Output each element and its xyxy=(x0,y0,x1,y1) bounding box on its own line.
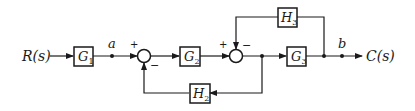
output-label: C(s) xyxy=(366,48,395,64)
sum1-plus-sign: + xyxy=(130,39,138,50)
block-diagram: R(s) C(s) G1 G2 G3 H2 H3 a b + − + − xyxy=(0,0,415,111)
sum2-plus-sign: + xyxy=(219,39,227,50)
g3-label: G3 xyxy=(291,49,306,66)
h2-label: H2 xyxy=(192,86,209,103)
summing-junction-2 xyxy=(230,50,243,63)
node-a xyxy=(110,54,114,58)
h3-label: H3 xyxy=(280,10,297,27)
sum1-minus-sign: − xyxy=(150,59,159,72)
node-b-label: b xyxy=(338,36,346,51)
g1-label: G1 xyxy=(78,49,93,66)
input-label: R(s) xyxy=(21,48,51,64)
pickoff-sum2-out xyxy=(260,54,264,58)
summing-junction-1 xyxy=(138,50,151,63)
h2-feedback-in xyxy=(210,56,262,93)
sum2-minus-sign: − xyxy=(242,39,251,52)
g2-label: G2 xyxy=(184,49,199,66)
pickoff-g3-out xyxy=(322,54,326,58)
node-a-label: a xyxy=(108,36,116,51)
node-b xyxy=(340,54,344,58)
